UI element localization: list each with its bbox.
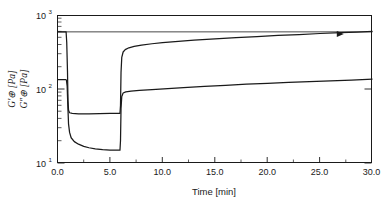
x-tick-labels: 0.0 5.0 10.0 15.0 20.0 25.0 30.0: [51, 167, 380, 177]
series-line-g-double-prime: [58, 79, 373, 150]
y-axis-title: G′⊕ [Pa] G″⊕ [Pa]: [7, 69, 29, 108]
chart-figure: 10 3 10 2 10 1 0.0 5.0 10.0 15.0 20.0 25…: [0, 0, 392, 208]
y-tick-exponent: 3: [49, 8, 53, 15]
plot-frame: [58, 16, 372, 163]
series-line-g-prime: [58, 31, 373, 113]
x-tick-label: 10.0: [154, 167, 172, 177]
data-curves: [58, 31, 373, 150]
x-tick-label: 5.0: [104, 167, 117, 177]
chart-svg: 10 3 10 2 10 1 0.0 5.0 10.0 15.0 20.0 25…: [0, 0, 392, 208]
x-tick-label: 30.0: [363, 167, 381, 177]
x-tick-label: 15.0: [206, 167, 224, 177]
y-tick-mantissa: 10: [36, 159, 46, 169]
y-axis-title-line-gdoubleprime: G″⊕ [Pa]: [19, 69, 29, 108]
y-tick-label-10: 10 1: [36, 156, 53, 169]
y-tick-exponent: 1: [49, 156, 53, 163]
y-tick-label-1000: 10 3: [36, 8, 53, 21]
y-tick-exponent: 2: [49, 82, 53, 89]
x-tick-label: 25.0: [311, 167, 329, 177]
y-tick-labels: 10 3 10 2 10 1: [36, 8, 53, 169]
y-tick-label-100: 10 2: [36, 82, 53, 95]
y-tick-mantissa: 10: [36, 11, 46, 21]
x-tick-label: 20.0: [258, 167, 276, 177]
y-axis-ticks: [58, 16, 372, 164]
x-axis-title: Time [min]: [192, 186, 236, 197]
y-tick-mantissa: 10: [36, 85, 46, 95]
x-tick-label: 0.0: [51, 167, 64, 177]
y-axis-title-line-gprime: G′⊕ [Pa]: [7, 70, 17, 108]
